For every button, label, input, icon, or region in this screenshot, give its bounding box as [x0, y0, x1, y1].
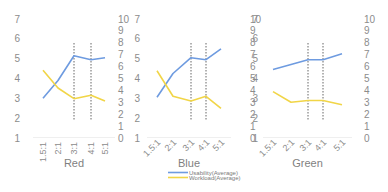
right-y-tick: 6: [364, 61, 370, 72]
right-y-tick: 4: [118, 85, 124, 96]
x-tick-label: 1.5:1: [38, 142, 48, 162]
x-tick-label: 3:1: [297, 137, 313, 153]
x-tick-label: 2:1: [280, 137, 296, 153]
right-y-tick: 2: [118, 109, 124, 120]
chart-canvas: 12345670123456789101.5:12:13:14:15:1Red1…: [0, 0, 388, 192]
chart-panels: 12345670123456789101.5:12:13:14:15:1Red1…: [14, 14, 375, 170]
x-tick-label: 4:1: [312, 137, 328, 153]
x-tick-label: 1.5:1: [257, 137, 278, 158]
right-y-tick: 10: [364, 14, 376, 25]
left-y-tick: 5: [14, 53, 20, 64]
x-tick-label: 4:1: [86, 142, 96, 155]
x-tick-label: 2:1: [162, 137, 178, 153]
x-tick-label: 5:1: [331, 137, 347, 153]
workload-line: [273, 92, 342, 105]
left-y-tick: 7: [14, 14, 20, 25]
left-y-tick: 1: [134, 133, 140, 144]
left-y-tick: 2: [134, 113, 140, 124]
chart-legend: Usability(Average) Workload(Average): [168, 170, 240, 181]
right-y-tick: 3: [118, 97, 124, 108]
workload-line: [157, 71, 221, 109]
right-y-tick: 8: [118, 37, 124, 48]
x-tick-label: 5:1: [210, 137, 226, 153]
right-y-tick: 2: [364, 109, 370, 120]
panel-red: 12345670123456789101.5:12:13:14:15:1Red: [14, 14, 129, 170]
right-y-tick: 7: [364, 49, 370, 60]
x-tick-label: 1.5:1: [141, 137, 162, 158]
right-y-tick: 5: [118, 73, 124, 84]
x-tick-label: 4:1: [195, 137, 211, 153]
left-y-tick: 7: [134, 14, 140, 25]
usability-line: [273, 54, 342, 70]
right-y-tick: 1: [364, 121, 370, 132]
usability-line: [157, 49, 221, 98]
right-y-tick: 0: [364, 133, 370, 144]
left-y-tick: 5: [134, 53, 140, 64]
panel-title: Blue: [178, 157, 200, 169]
right-y-tick: 4: [364, 85, 370, 96]
left-y-tick: 5: [252, 53, 258, 64]
panel-blue: 12345670123456789101.5:12:13:14:15:1Blue: [134, 14, 261, 170]
panel-title: Red: [64, 157, 84, 169]
panel-title: Green: [292, 157, 323, 169]
right-y-tick: 1: [118, 121, 124, 132]
right-y-tick: 9: [364, 25, 370, 36]
right-y-tick: 0: [118, 133, 124, 144]
x-tick-label: 5:1: [100, 142, 110, 155]
panel-green: 12345670123456789101.5:12:13:14:15:1Gree…: [252, 14, 375, 170]
left-y-tick: 3: [252, 93, 258, 104]
chart-figure: 12345670123456789101.5:12:13:14:15:1Red1…: [0, 0, 388, 192]
right-y-tick: 3: [364, 97, 370, 108]
x-tick-label: 3:1: [180, 137, 196, 153]
left-y-tick: 4: [134, 73, 140, 84]
left-y-tick: 3: [134, 93, 140, 104]
left-y-tick: 3: [14, 93, 20, 104]
legend-label-workload: Workload(Average): [189, 175, 240, 181]
left-y-tick: 6: [252, 33, 258, 44]
x-tick-label: 2:1: [53, 142, 63, 155]
left-y-tick: 4: [252, 73, 258, 84]
right-y-tick: 10: [118, 14, 130, 25]
right-y-tick: 9: [118, 25, 124, 36]
left-y-tick: 7: [252, 14, 258, 25]
right-y-tick: 8: [364, 37, 370, 48]
left-y-tick: 4: [14, 73, 20, 84]
left-y-tick: 1: [14, 133, 20, 144]
left-y-tick: 2: [14, 113, 20, 124]
left-y-tick: 6: [134, 33, 140, 44]
left-y-tick: 2: [252, 113, 258, 124]
right-y-tick: 7: [118, 49, 124, 60]
left-y-tick: 6: [14, 33, 20, 44]
left-y-tick: 1: [252, 133, 258, 144]
x-tick-label: 3:1: [69, 142, 79, 155]
right-y-tick: 5: [364, 73, 370, 84]
right-y-tick: 6: [118, 61, 124, 72]
